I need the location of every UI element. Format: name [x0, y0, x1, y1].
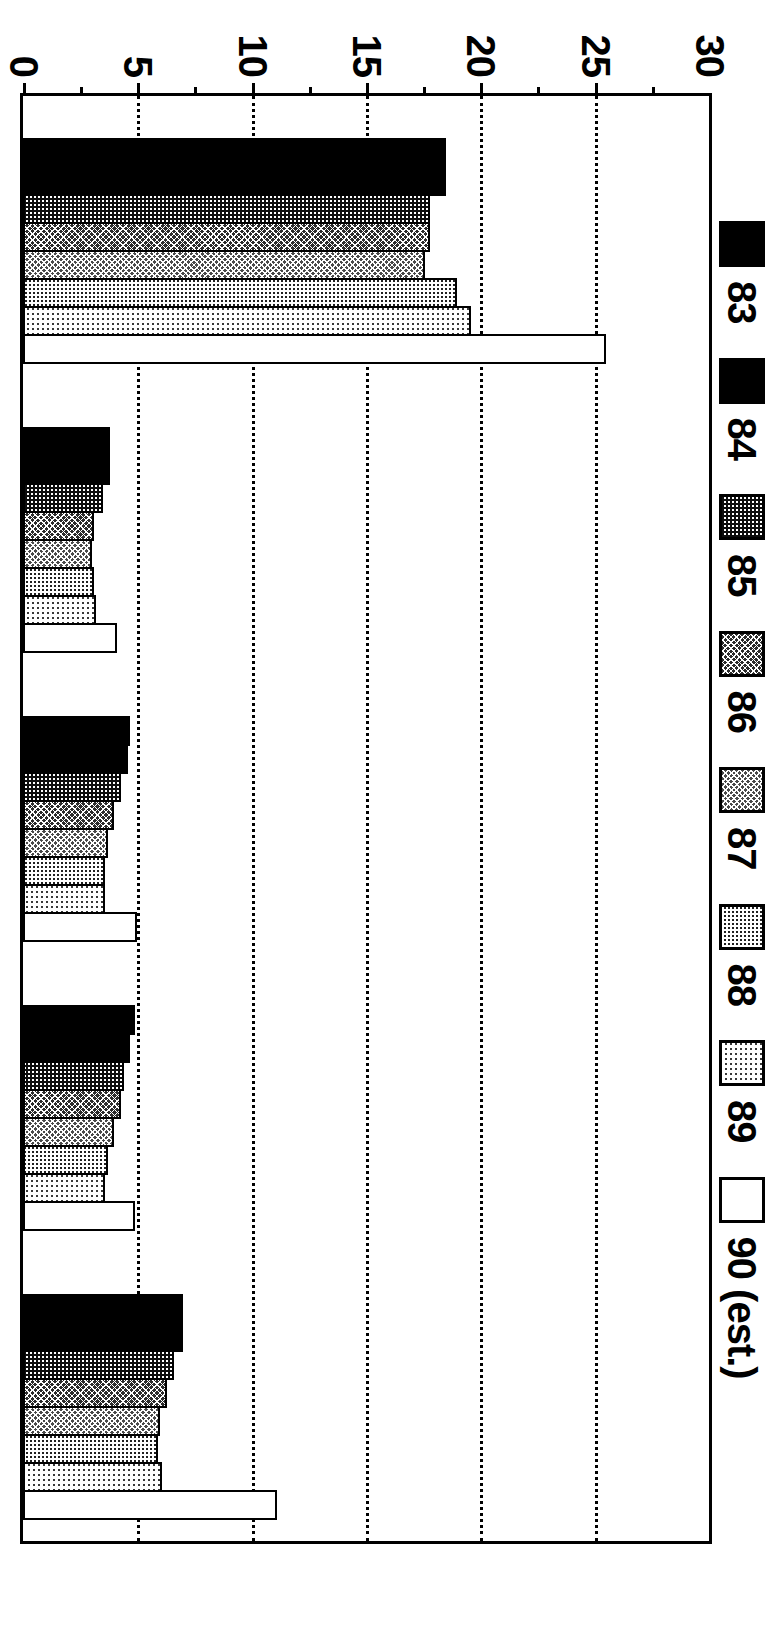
legend-label: 84 [720, 418, 765, 461]
legend-swatch-icon [719, 904, 765, 950]
bar [23, 455, 110, 485]
legend-entry: 83 [719, 221, 765, 324]
bar [23, 334, 606, 364]
category-label: Midwest [0, 751, 4, 905]
value-axis-tick-label: 10 [229, 35, 274, 94]
bar [23, 1145, 108, 1175]
legend-label: 83 [720, 281, 765, 324]
legend-entry: 87 [719, 767, 765, 870]
legend-label: 87 [720, 827, 765, 870]
bar [23, 1434, 158, 1464]
category-label: West [0, 1071, 4, 1164]
legend-swatch-icon [719, 767, 765, 813]
legend-swatch-icon [719, 1177, 765, 1223]
legend-entry: 86 [719, 631, 765, 734]
legend-entry: 89 [719, 1040, 765, 1143]
bar [23, 539, 92, 569]
bar [23, 1322, 183, 1352]
legend-swatch-icon [719, 1040, 765, 1086]
legend-label: 86 [720, 691, 765, 734]
legend-label: 88 [720, 964, 765, 1007]
axis-tick-minor [195, 87, 198, 96]
bar [23, 567, 94, 597]
bar [23, 138, 446, 168]
bar [23, 166, 446, 196]
bar [23, 1173, 105, 1203]
legend-label: 89 [720, 1100, 765, 1143]
bar [23, 1089, 121, 1119]
bar [23, 744, 128, 774]
bar [23, 306, 471, 336]
axis-tick-minor [309, 87, 312, 96]
legend-swatch-icon [719, 494, 765, 540]
bar-chart-figure: 8384858687888990 (est.) 051015202530 U.S… [0, 0, 774, 1648]
value-axis-tick-label: 0 [1, 56, 46, 93]
value-axis-tick-label: 20 [458, 35, 503, 94]
legend-entry: 88 [719, 904, 765, 1007]
category-label: U.S. Total [0, 162, 4, 338]
legend-swatch-icon [719, 358, 765, 404]
bar [23, 828, 108, 858]
legend-entry: 84 [719, 358, 765, 461]
bar [23, 511, 94, 541]
rotated-figure-canvas: 8384858687888990 (est.) 051015202530 U.S… [0, 0, 774, 1648]
bar [23, 1061, 124, 1091]
axis-tick-minor [423, 87, 426, 96]
value-axis-tick-label: 15 [344, 35, 389, 94]
bar [23, 194, 430, 224]
gridline [480, 96, 483, 1541]
category-label: South [0, 1351, 4, 1462]
bar [23, 483, 103, 513]
legend-label: 85 [720, 554, 765, 597]
bar [23, 1462, 162, 1492]
chart-legend: 8384858687888990 (est.) [716, 221, 768, 1413]
plot-area [23, 96, 709, 1541]
bar [23, 595, 96, 625]
value-axis-tick-label: 30 [687, 35, 732, 94]
axis-tick-minor [652, 87, 655, 96]
plot-frame [20, 93, 712, 1544]
bar [23, 1005, 135, 1035]
bar [23, 1378, 167, 1408]
bar [23, 623, 117, 653]
bar [23, 772, 121, 802]
legend-entry: 90 (est.) [719, 1177, 765, 1379]
bar [23, 800, 114, 830]
value-axis-tick-label: 25 [572, 35, 617, 94]
bar [23, 856, 105, 886]
legend-label: 90 (est.) [720, 1237, 765, 1379]
legend-entry: 85 [719, 494, 765, 597]
bar [23, 222, 430, 252]
bar [23, 427, 110, 457]
bar [23, 1350, 174, 1380]
bar [23, 912, 137, 942]
legend-swatch-icon [719, 631, 765, 677]
bar [23, 1033, 130, 1063]
axis-tick-minor [538, 87, 541, 96]
value-axis-tick-label: 5 [115, 56, 160, 93]
legend-swatch-icon [719, 221, 765, 267]
bar [23, 884, 105, 914]
bar [23, 1406, 160, 1436]
bar [23, 1294, 183, 1324]
bar [23, 1201, 135, 1231]
bar [23, 716, 130, 746]
bar [23, 278, 457, 308]
bar [23, 1490, 277, 1520]
bar [23, 250, 425, 280]
category-label: Northeast [0, 448, 4, 630]
bar [23, 1117, 114, 1147]
axis-tick-minor [80, 87, 83, 96]
gridline [595, 96, 598, 1541]
